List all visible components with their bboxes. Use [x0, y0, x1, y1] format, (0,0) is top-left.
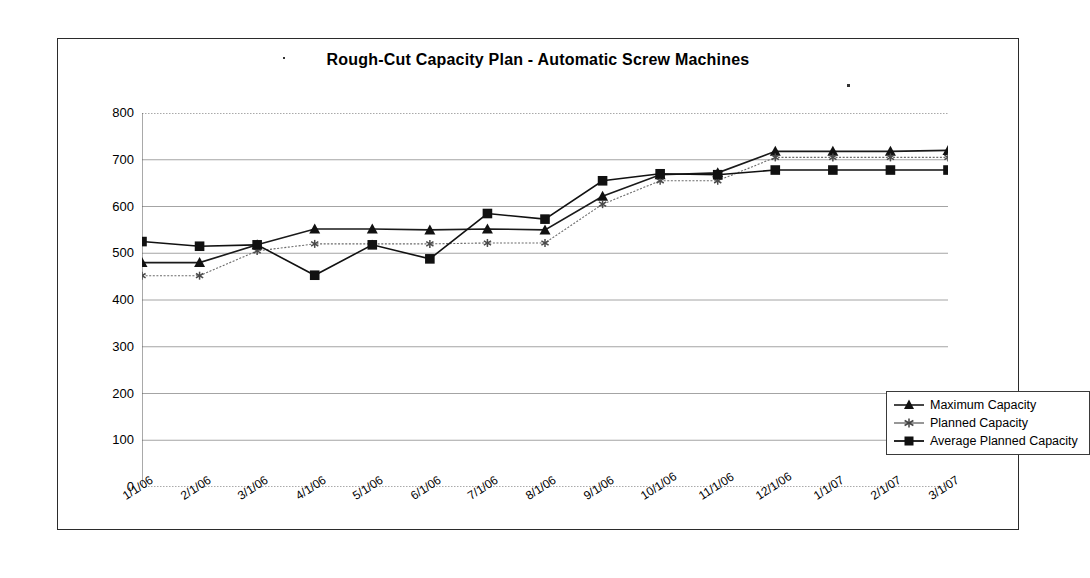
legend-marker-triangle-icon [892, 397, 926, 413]
y-tick-label: 100 [94, 433, 134, 446]
y-tick-label: 200 [94, 387, 134, 400]
plot-area [142, 113, 948, 487]
y-tick-label: 700 [94, 153, 134, 166]
data-point-square-marker [770, 165, 780, 175]
y-tick-label: 600 [94, 200, 134, 213]
data-point-square-marker [142, 237, 147, 247]
data-point-square-marker [943, 165, 948, 175]
data-point-triangle-marker [597, 191, 608, 201]
y-tick-label: 400 [94, 293, 134, 306]
legend-label: Maximum Capacity [930, 398, 1036, 412]
legend-label: Average Planned Capacity [930, 434, 1078, 448]
data-point-asterisk-marker [599, 200, 606, 208]
data-point-square-marker [713, 170, 723, 180]
data-point-square-marker [483, 209, 493, 219]
data-point-square-marker [425, 254, 435, 264]
legend-marker-asterisk-icon [892, 415, 926, 431]
chart-title: Rough-Cut Capacity Plan - Automatic Scre… [58, 51, 1018, 69]
x-axis-tick-labels: 1/1/062/1/063/1/064/1/065/1/066/1/067/1/… [142, 491, 948, 561]
title-trailing-dot-artifact [847, 84, 850, 87]
plot-svg [142, 113, 948, 487]
data-point-square-marker [367, 240, 377, 250]
y-tick-label: 300 [94, 340, 134, 353]
data-point-square-marker [828, 165, 838, 175]
data-point-asterisk-marker [541, 239, 548, 247]
data-point-square-marker [598, 176, 608, 186]
legend-label: Planned Capacity [930, 416, 1028, 430]
y-tick-label: 500 [94, 246, 134, 259]
data-point-square-marker [310, 270, 320, 280]
chart-frame: Rough-Cut Capacity Plan - Automatic Scre… [57, 38, 1019, 530]
data-point-square-marker [195, 241, 205, 251]
data-point-square-marker [540, 214, 550, 224]
data-point-square-marker [252, 240, 262, 250]
y-axis-tick-labels: 8007006005004003002001000 [86, 113, 134, 487]
legend-item-average-planned-capacity: Average Planned Capacity [892, 432, 1084, 450]
legend-item-planned-capacity: Planned Capacity [892, 414, 1084, 432]
data-point-square-marker [886, 165, 896, 175]
chart-legend: Maximum Capacity Planned Capacity Averag… [886, 391, 1090, 455]
series-average-planned-capacity [142, 165, 948, 280]
legend-item-maximum-capacity: Maximum Capacity [892, 396, 1084, 414]
y-tick-label: 800 [94, 106, 134, 119]
data-point-square-marker [655, 169, 665, 179]
legend-marker-square-icon [892, 433, 926, 449]
